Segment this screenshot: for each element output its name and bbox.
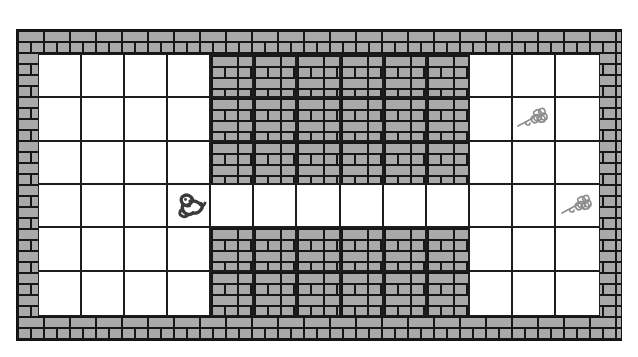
- maze-open-cell[interactable]: [211, 185, 254, 228]
- maze-open-cell[interactable]: [513, 228, 556, 271]
- maze-wall-cell: [211, 142, 254, 185]
- maze-open-cell[interactable]: [39, 142, 82, 185]
- maze-open-cell[interactable]: [39, 272, 82, 315]
- frog-sprite-label: frog: [169, 226, 170, 227]
- maze-open-cell[interactable]: [470, 228, 513, 271]
- maze-wall-cell: [254, 55, 297, 98]
- scene-title: Brick maze grid puzzle: [0, 0, 1, 1]
- maze-wall-cell: [297, 272, 340, 315]
- maze-wall-cell: [384, 272, 427, 315]
- maze-open-cell[interactable]: [556, 228, 599, 271]
- maze-wall-cell: [384, 142, 427, 185]
- maze-open-cell[interactable]: [556, 142, 599, 185]
- maze-wall-cell: [211, 98, 254, 141]
- maze-open-cell[interactable]: [82, 228, 125, 271]
- maze-open-cell[interactable]: [39, 55, 82, 98]
- maze-grid: flowerfrogflower: [38, 54, 600, 316]
- maze-wall-cell: [384, 55, 427, 98]
- maze-wall-cell: [211, 228, 254, 271]
- flower-sprite: flower: [557, 186, 597, 226]
- maze-open-cell[interactable]: flower: [513, 98, 556, 141]
- maze-open-cell[interactable]: [470, 272, 513, 315]
- maze-open-cell[interactable]: [82, 272, 125, 315]
- maze-wall-cell: [254, 272, 297, 315]
- maze-open-cell[interactable]: [39, 185, 82, 228]
- maze-open-cell[interactable]: [556, 98, 599, 141]
- flower-sprite: flower: [513, 99, 553, 139]
- maze-open-cell[interactable]: [556, 272, 599, 315]
- maze-wall-cell: [384, 98, 427, 141]
- maze-open-cell[interactable]: [125, 185, 168, 228]
- maze-open-cell[interactable]: frog: [168, 185, 211, 228]
- frog-sprite: frog: [169, 186, 209, 226]
- maze-open-cell[interactable]: [82, 142, 125, 185]
- maze-wall-cell: [427, 98, 470, 141]
- maze-open-cell[interactable]: [168, 272, 211, 315]
- maze-open-cell[interactable]: [427, 185, 470, 228]
- maze-open-cell[interactable]: [556, 55, 599, 98]
- maze-open-cell[interactable]: [513, 55, 556, 98]
- maze-open-cell[interactable]: [297, 185, 340, 228]
- maze-wall-cell: [297, 228, 340, 271]
- maze-open-cell[interactable]: flower: [556, 185, 599, 228]
- maze-wall-cell: [384, 228, 427, 271]
- maze-wall-cell: [427, 272, 470, 315]
- maze-wall-cell: [211, 55, 254, 98]
- maze-open-cell[interactable]: [513, 185, 556, 228]
- maze-open-cell[interactable]: [470, 98, 513, 141]
- maze-open-cell[interactable]: [82, 185, 125, 228]
- maze-open-cell[interactable]: [513, 272, 556, 315]
- maze-open-cell[interactable]: [168, 228, 211, 271]
- maze-scene: flowerfrogflower Brick maze grid puzzle: [0, 0, 638, 357]
- maze-wall-cell: [341, 98, 384, 141]
- maze-wall-cell: [297, 98, 340, 141]
- maze-wall-cell: [254, 98, 297, 141]
- maze-open-cell[interactable]: [39, 98, 82, 141]
- maze-open-cell[interactable]: [254, 185, 297, 228]
- flower-sprite-label: flower: [557, 226, 558, 227]
- maze-open-cell[interactable]: [82, 55, 125, 98]
- maze-open-cell[interactable]: [384, 185, 427, 228]
- maze-open-cell[interactable]: [470, 142, 513, 185]
- maze-open-cell[interactable]: [168, 55, 211, 98]
- maze-wall-cell: [341, 272, 384, 315]
- maze-wall-cell: [427, 142, 470, 185]
- maze-wall-cell: [211, 272, 254, 315]
- maze-wall-cell: [427, 55, 470, 98]
- maze-wall-cell: [254, 228, 297, 271]
- maze-wall-cell: [341, 228, 384, 271]
- maze-open-cell[interactable]: [125, 228, 168, 271]
- maze-wall-cell: [254, 142, 297, 185]
- flower-sprite-label: flower: [513, 139, 514, 140]
- maze-open-cell[interactable]: [125, 272, 168, 315]
- maze-wall-cell: [341, 142, 384, 185]
- maze-open-cell[interactable]: [125, 55, 168, 98]
- maze-open-cell[interactable]: [470, 185, 513, 228]
- maze-open-cell[interactable]: [125, 98, 168, 141]
- maze-wall-cell: [297, 55, 340, 98]
- maze-open-cell[interactable]: [168, 142, 211, 185]
- maze-open-cell[interactable]: [168, 98, 211, 141]
- maze-open-cell[interactable]: [125, 142, 168, 185]
- maze-open-cell[interactable]: [470, 55, 513, 98]
- maze-open-cell[interactable]: [513, 142, 556, 185]
- maze-wall-cell: [297, 142, 340, 185]
- maze-wall-cell: [427, 228, 470, 271]
- maze-open-cell[interactable]: [341, 185, 384, 228]
- maze-wall-cell: [341, 55, 384, 98]
- maze-open-cell[interactable]: [39, 228, 82, 271]
- maze-open-cell[interactable]: [82, 98, 125, 141]
